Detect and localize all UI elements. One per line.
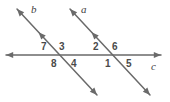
line-label-a: a	[81, 4, 87, 15]
diagram-canvas	[0, 0, 170, 102]
angle-label-5: 5	[126, 59, 132, 69]
angle-label-4: 4	[71, 59, 77, 69]
angle-label-1: 1	[105, 59, 111, 69]
angle-label-7: 7	[41, 42, 47, 52]
angle-label-6: 6	[112, 42, 118, 52]
angle-label-3: 3	[59, 42, 65, 52]
line-label-b: b	[31, 4, 37, 15]
geometry-diagram: b a c 7 3 2 6 8 4 1 5	[0, 0, 170, 102]
line-b	[17, 9, 97, 95]
lines-group	[6, 9, 161, 95]
line-c-end-arrow-icon	[154, 52, 161, 58]
line-label-c: c	[151, 61, 156, 72]
line-a	[70, 9, 150, 95]
angle-label-2: 2	[93, 42, 99, 52]
line-c-start-arrow-icon	[6, 52, 13, 58]
angle-label-8: 8	[51, 59, 57, 69]
